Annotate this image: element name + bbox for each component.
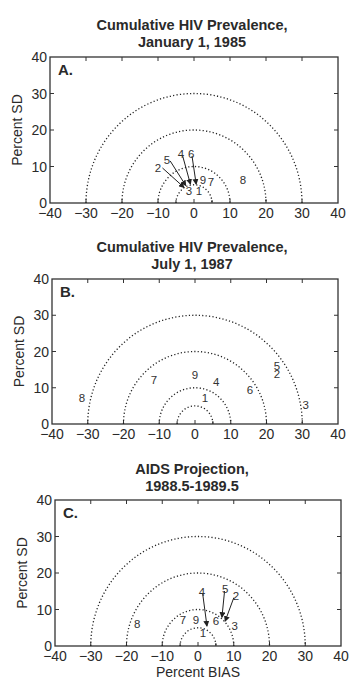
panel-letter: C. <box>63 504 78 521</box>
point-label: 1 <box>200 627 206 639</box>
point-label: 8 <box>79 392 85 404</box>
x-axis-label: Percent BIAS <box>156 664 240 680</box>
y-tick-label: 0 <box>39 195 47 211</box>
x-tick-label: 10 <box>226 648 242 664</box>
plot-c: −40−30−20−10010203040010203040Percent SD… <box>14 492 349 680</box>
y-tick-label: 20 <box>31 122 47 138</box>
point-label: 8 <box>134 618 140 630</box>
point-label: 1 <box>202 392 208 404</box>
point-arrow <box>192 156 196 184</box>
point-label: 1 <box>196 185 202 197</box>
x-tick-label: 20 <box>262 648 278 664</box>
y-tick-label: 20 <box>36 565 52 581</box>
y-tick-label: 30 <box>31 86 47 102</box>
x-tick-label: 10 <box>223 426 239 442</box>
x-tick-label: 40 <box>330 426 346 442</box>
point-label: 6 <box>188 148 194 160</box>
y-tick-label: 30 <box>36 529 52 545</box>
x-tick-label: −10 <box>150 648 174 664</box>
point-label: 7 <box>208 176 214 188</box>
point-label: 8 <box>240 174 246 186</box>
y-tick-label: 10 <box>36 602 52 618</box>
x-tick-label: 30 <box>294 205 310 221</box>
x-tick-label: −20 <box>115 648 139 664</box>
x-tick-label: 20 <box>258 205 274 221</box>
y-tick-label: 10 <box>33 380 49 396</box>
panel-letter: A. <box>58 61 73 78</box>
reference-semicircle <box>127 573 270 646</box>
x-tick-label: 30 <box>297 648 313 664</box>
point-label: 3 <box>232 620 238 632</box>
point-label: 2 <box>155 162 161 174</box>
x-tick-label: 40 <box>333 648 349 664</box>
point-label: 3 <box>186 185 192 197</box>
point-label: 4 <box>178 148 185 160</box>
x-tick-label: 10 <box>222 205 238 221</box>
y-axis-label: Percent SD <box>14 537 30 609</box>
point-label: 6 <box>213 615 219 627</box>
point-label: 7 <box>151 374 157 386</box>
y-tick-label: 0 <box>44 638 52 654</box>
x-tick-label: −30 <box>76 426 100 442</box>
point-label: 4 <box>213 376 220 388</box>
x-tick-label: −20 <box>112 426 136 442</box>
point-label: 6 <box>247 384 253 396</box>
point-label: 9 <box>200 174 206 186</box>
x-tick-label: −30 <box>74 205 98 221</box>
plot-frame <box>50 57 338 203</box>
y-tick-label: 0 <box>41 416 49 432</box>
x-tick-label: 30 <box>294 426 310 442</box>
y-tick-label: 40 <box>33 271 49 287</box>
x-tick-label: 40 <box>330 205 346 221</box>
point-label: 9 <box>192 369 198 381</box>
point-label: 7 <box>180 614 186 626</box>
y-tick-label: 10 <box>31 159 47 175</box>
x-tick-label: 0 <box>190 205 198 221</box>
x-tick-label: 0 <box>191 426 199 442</box>
y-tick-label: 40 <box>36 492 52 508</box>
x-tick-label: −10 <box>146 205 170 221</box>
point-label: 4 <box>199 586 206 598</box>
point-label: 5 <box>164 154 170 166</box>
point-label: 5 <box>274 360 280 372</box>
point-label: 3 <box>303 399 309 411</box>
x-tick-label: −10 <box>147 426 171 442</box>
point-label: 5 <box>222 583 228 595</box>
point-arrow <box>183 156 191 184</box>
x-tick-label: 0 <box>194 648 202 664</box>
reference-semicircle <box>124 352 267 425</box>
y-tick-label: 30 <box>33 307 49 323</box>
y-axis-label: Percent SD <box>11 316 27 388</box>
plot-a: −40−30−20−10010203040010203040Percent SD… <box>9 49 346 221</box>
x-tick-label: 20 <box>259 426 275 442</box>
x-tick-label: −20 <box>110 205 134 221</box>
y-tick-label: 40 <box>31 49 47 65</box>
chart-plots: −40−30−20−10010203040010203040Percent SD… <box>0 0 364 681</box>
y-tick-label: 20 <box>33 344 49 360</box>
point-label: 2 <box>233 590 239 602</box>
plot-b: −40−30−20−10010203040010203040Percent SD… <box>11 271 346 442</box>
panel-letter: B. <box>60 283 75 300</box>
y-axis-label: Percent SD <box>9 94 25 166</box>
x-tick-label: −30 <box>79 648 103 664</box>
point-label: 9 <box>193 614 199 626</box>
